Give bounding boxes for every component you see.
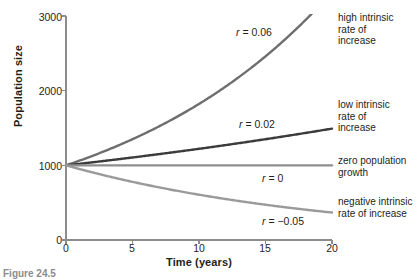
caption-line: increase	[338, 122, 418, 134]
annotation-r-value: = −0.05	[266, 215, 305, 227]
caption-line: increase	[338, 35, 418, 47]
series-caption-low-intrinsic: low intrinsic rate of increase	[338, 99, 418, 134]
annotation-r-0-02: r = 0.02	[239, 118, 275, 130]
caption-line: rate of increase	[338, 208, 418, 220]
caption-line: growth	[338, 167, 418, 179]
curve-series-1	[66, 129, 332, 166]
series-caption-zero-growth: zero population growth	[338, 155, 418, 178]
axes-group	[62, 16, 332, 244]
annotation-r-value: = 0.06	[240, 26, 272, 38]
series-caption-high-intrinsic: high intrinsic rate of increase	[338, 12, 418, 47]
caption-line: zero population	[338, 155, 418, 167]
annotation-r-value: = 0	[266, 172, 284, 184]
caption-line: negative intrinsic	[338, 196, 418, 208]
curve-series-0	[66, 0, 332, 165]
figure-number-label: Figure 24.5	[3, 268, 56, 279]
curve-series-3	[66, 165, 332, 212]
caption-line: rate of	[338, 111, 418, 123]
annotation-r-negative-0-05: r = −0.05	[262, 215, 304, 227]
series-caption-negative-intrinsic: negative intrinsic rate of increase	[338, 196, 418, 219]
annotation-r-0: r = 0	[262, 172, 283, 184]
caption-line: low intrinsic	[338, 99, 418, 111]
caption-line: high intrinsic	[338, 12, 418, 24]
caption-line: rate of	[338, 24, 418, 36]
annotation-r-value: = 0.02	[243, 118, 275, 130]
annotation-r-0-06: r = 0.06	[236, 26, 272, 38]
curves-group	[66, 0, 332, 213]
